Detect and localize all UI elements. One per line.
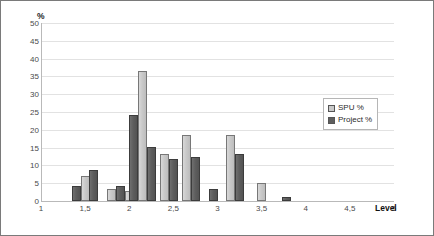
bar-spu-11 xyxy=(182,135,191,201)
legend-label-spu: SPU % xyxy=(338,102,364,114)
bar-spu-16 xyxy=(257,183,266,202)
bar-project-6 xyxy=(129,115,138,202)
x-tick-2-5: 2,5 xyxy=(153,204,193,213)
x-axis-tick-labels: 11,522,533,544,55 xyxy=(41,204,394,220)
y-tick-5: 5 xyxy=(11,179,39,188)
bar-project-10 xyxy=(169,159,178,201)
y-tick-40: 40 xyxy=(11,54,39,63)
y-tick-10: 10 xyxy=(11,161,39,170)
y-tick-50: 50 xyxy=(11,19,39,28)
bar-spu-3 xyxy=(107,189,116,201)
bar-project-0 xyxy=(72,186,81,201)
y-tick-15: 15 xyxy=(11,143,39,152)
x-tick-3: 3 xyxy=(198,204,238,213)
legend-item-project: Project % xyxy=(328,114,372,126)
x-tick-4: 4 xyxy=(286,204,326,213)
bar-project-8 xyxy=(147,147,156,201)
chart-figure: % 05101520253035404550 11,522,533,544,55… xyxy=(0,0,434,236)
y-tick-20: 20 xyxy=(11,125,39,134)
legend-swatch-project-icon xyxy=(328,117,335,124)
x-tick-2: 2 xyxy=(109,204,149,213)
bar-project-15 xyxy=(235,154,244,201)
y-tick-45: 45 xyxy=(11,36,39,45)
legend-label-project: Project % xyxy=(338,114,372,126)
chart-legend: SPU % Project % xyxy=(323,98,378,130)
x-tick-4-5: 4,5 xyxy=(330,204,370,213)
bar-spu-7 xyxy=(138,71,147,201)
bar-project-2 xyxy=(89,170,98,201)
legend-item-spu: SPU % xyxy=(328,102,372,114)
x-tick-1: 1 xyxy=(21,204,61,213)
y-tick-25: 25 xyxy=(11,108,39,117)
y-tick-35: 35 xyxy=(11,72,39,81)
bar-project-17 xyxy=(282,197,291,201)
x-axis-title: Level xyxy=(375,203,397,213)
bar-project-13 xyxy=(209,189,218,201)
legend-swatch-spu-icon xyxy=(328,105,335,112)
bar-spu-9 xyxy=(160,154,169,201)
x-tick-3-5: 3,5 xyxy=(242,204,282,213)
bar-spu-1 xyxy=(81,176,90,201)
bar-project-4 xyxy=(116,186,125,201)
bar-project-12 xyxy=(191,157,200,201)
bar-spu-14 xyxy=(226,135,235,201)
gridline-0 xyxy=(41,201,394,202)
y-tick-30: 30 xyxy=(11,90,39,99)
x-tick-1-5: 1,5 xyxy=(65,204,105,213)
